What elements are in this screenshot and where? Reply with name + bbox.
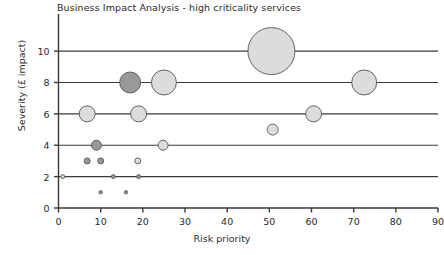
- x-tick-label: 30: [179, 216, 191, 227]
- x-tick-label: 0: [55, 216, 61, 227]
- data-bubble: [135, 158, 141, 164]
- x-tick-label: 90: [432, 216, 444, 227]
- data-bubble: [99, 191, 102, 194]
- y-tick-label: 4: [0, 140, 50, 151]
- x-tick-label: 50: [263, 216, 275, 227]
- data-bubble: [306, 106, 322, 122]
- data-bubble: [158, 140, 168, 150]
- data-bubble: [98, 158, 104, 164]
- data-bubble: [91, 140, 101, 150]
- data-bubble: [61, 175, 65, 179]
- x-tick-label: 80: [390, 216, 402, 227]
- data-bubble: [111, 175, 115, 179]
- x-tick-label: 60: [305, 216, 317, 227]
- x-tick-label: 40: [221, 216, 233, 227]
- y-tick-label: 10: [0, 46, 50, 57]
- data-bubble: [120, 72, 141, 93]
- y-tick-label: 8: [0, 77, 50, 88]
- data-bubble: [267, 124, 278, 135]
- data-bubble: [151, 70, 176, 95]
- data-bubble: [79, 106, 95, 122]
- data-bubble: [131, 106, 147, 122]
- data-bubble: [352, 70, 377, 95]
- data-bubble: [137, 175, 141, 179]
- y-tick-label: 2: [0, 171, 50, 182]
- x-axis-title: Risk priority: [0, 233, 444, 244]
- x-tick-label: 10: [95, 216, 107, 227]
- bubble-chart: Business Impact Analysis - high critical…: [0, 0, 444, 255]
- x-tick-label: 70: [348, 216, 360, 227]
- x-tick-label: 20: [137, 216, 149, 227]
- data-bubble: [84, 158, 90, 164]
- y-tick-label: 0: [0, 203, 50, 214]
- y-tick-label: 6: [0, 108, 50, 119]
- data-bubble: [248, 28, 295, 75]
- data-bubble: [124, 191, 127, 194]
